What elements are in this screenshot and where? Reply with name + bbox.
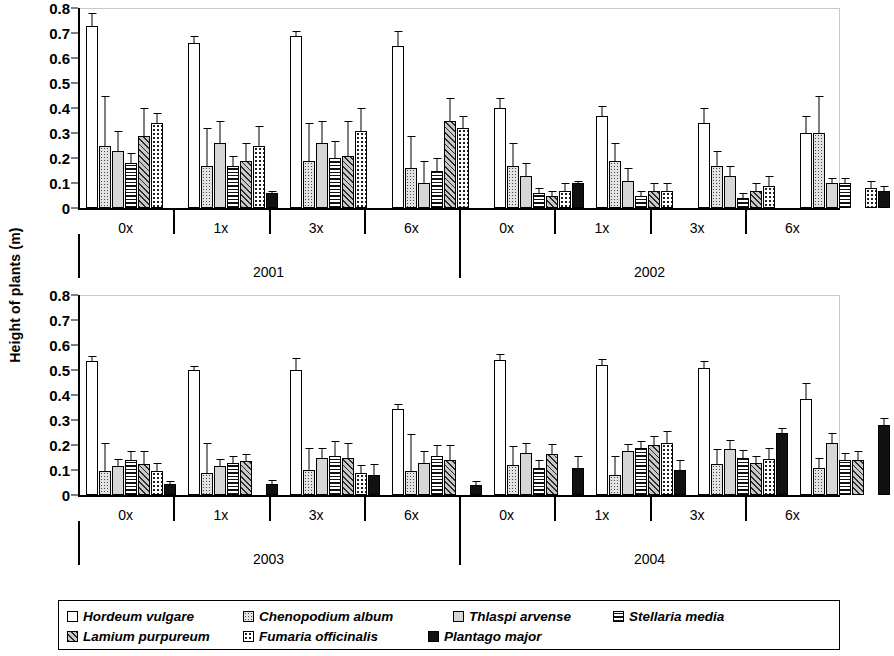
bar-fill [622, 451, 634, 495]
legend-label: Chenopodium album [259, 609, 393, 624]
bar-thlaspi-arvense [112, 466, 124, 495]
error-bar [578, 456, 579, 467]
legend-label: Fumaria officinalis [259, 629, 378, 644]
bar-fill [596, 365, 608, 495]
bar-chenopodium-album [405, 471, 417, 495]
y-tick-label: 0.8 [49, 0, 70, 17]
bar-fill [303, 161, 315, 209]
bar-fill [86, 26, 98, 209]
y-tick-label: 0.2 [49, 150, 70, 167]
bar-stellaria-media [431, 456, 443, 495]
bar-fill [444, 121, 456, 209]
error-bar [552, 191, 553, 196]
error-bar [578, 181, 579, 184]
error-bar [309, 123, 310, 161]
bar-thlaspi-arvense [316, 458, 328, 496]
bar-plantago-major [674, 470, 686, 495]
bar-lamium-purpureum [648, 191, 660, 209]
error-bar [602, 106, 603, 116]
error-bar [105, 96, 106, 146]
y-tick-mark [71, 320, 78, 321]
bar-fill [214, 143, 226, 208]
bar-fill [188, 370, 200, 495]
bar-stellaria-media [737, 198, 749, 208]
error-bar [398, 404, 399, 409]
bar-fill [609, 161, 621, 209]
legend-swatch-sparse-dotted [243, 631, 254, 642]
y-axis-title: Height of plants (m) [0, 0, 30, 590]
error-bar [348, 443, 349, 458]
y-tick-mark [71, 208, 78, 209]
bar-fill [546, 196, 558, 209]
legend-label: Hordeum vulgare [83, 609, 194, 624]
bar-hordeum-vulgare [188, 370, 200, 495]
error-bar [233, 456, 234, 462]
error-bar [335, 141, 336, 159]
legend-row: Lamium purpureumFumaria officinalisPlant… [67, 626, 831, 646]
error-bar [309, 448, 310, 471]
x-tick-separator [459, 495, 461, 521]
bar-thlaspi-arvense [622, 451, 634, 495]
y-tick-label: 0.5 [49, 75, 70, 92]
error-bar [704, 361, 705, 367]
bar-chenopodium-album [201, 473, 213, 496]
bar-thlaspi-arvense [724, 176, 736, 209]
error-bar [667, 431, 668, 442]
legend-label: Lamium purpureum [83, 629, 210, 644]
bar-hordeum-vulgare [494, 360, 506, 495]
legend-item-plantago-major: Plantago major [428, 629, 628, 644]
bar-lamium-purpureum [852, 460, 864, 495]
error-bar [361, 108, 362, 131]
error-bar [513, 446, 514, 465]
bar-fill [329, 158, 341, 208]
error-bar [704, 108, 705, 123]
error-bar [654, 436, 655, 445]
plot-area-top: 0.80.70.60.50.40.30.20.100x1x3x6x0x1x3x6… [30, 8, 840, 223]
bar-chenopodium-album [711, 166, 723, 209]
x-tick-separator [650, 208, 652, 234]
bar-fill [405, 168, 417, 208]
bar-lamium-purpureum [240, 161, 252, 209]
bar-fill [355, 131, 367, 209]
error-bar [194, 36, 195, 44]
bar-plantago-major [368, 475, 380, 495]
legend-item-lamium-purpureum: Lamium purpureum [67, 629, 243, 644]
bar-chenopodium-album [711, 464, 723, 495]
error-bar [832, 178, 833, 183]
bar-lamium-purpureum [750, 191, 762, 209]
chart-panel-bottom: 0.80.70.60.50.40.30.20.100x1x3x6x0x1x3x6… [30, 295, 840, 585]
error-bar [615, 143, 616, 161]
bar-stellaria-media [227, 463, 239, 496]
error-bar [730, 166, 731, 176]
legend-item-chenopodium-album: Chenopodium album [243, 609, 453, 624]
bar-chenopodium-album [609, 475, 621, 495]
bar-fill [392, 46, 404, 209]
x-tick-separator [554, 208, 556, 234]
y-tick-label: 0.1 [49, 462, 70, 479]
y-tick-label: 0.7 [49, 25, 70, 42]
error-bar [411, 434, 412, 472]
bar-thlaspi-arvense [622, 181, 634, 209]
error-bar [654, 183, 655, 191]
x-axis-year-row: 20012002 [78, 234, 840, 286]
axes-top [78, 8, 840, 210]
error-bar [717, 449, 718, 464]
legend-swatch-fine-dotted [243, 611, 254, 622]
bar-hordeum-vulgare [596, 365, 608, 495]
error-bar [272, 191, 273, 194]
bar-lamium-purpureum [342, 458, 354, 496]
bar-fill [826, 443, 838, 496]
bar-fill [661, 443, 673, 496]
y-tick-mark [71, 295, 78, 296]
bar-fill [724, 449, 736, 495]
bar-group-2004-0x [488, 295, 590, 495]
bar-fill [520, 453, 532, 496]
error-bar [194, 366, 195, 370]
year-separator [459, 234, 461, 278]
error-bar [615, 456, 616, 475]
bar-fill [813, 468, 825, 496]
plot-area-bottom: 0.80.70.60.50.40.30.20.100x1x3x6x0x1x3x6… [30, 295, 840, 510]
bar-fill [572, 468, 584, 496]
y-tick-label: 0.8 [49, 287, 70, 304]
bar-hordeum-vulgare [596, 116, 608, 209]
